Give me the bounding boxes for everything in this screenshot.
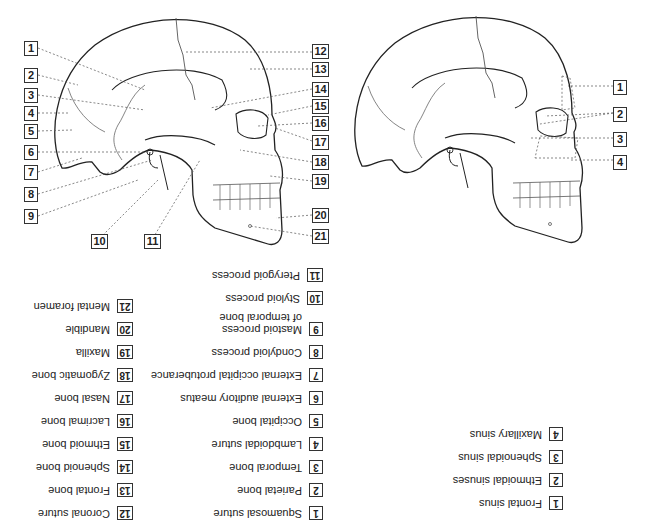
legend-item: 3 Sphenoidal sinus [458, 450, 563, 464]
legend-label: Sphenoidal sinus [458, 452, 542, 464]
legend-label: Ethmoidal sinuses [453, 475, 542, 487]
marker-21: 21 [312, 229, 329, 244]
legend-item: 4 Maxillary sinus [470, 427, 563, 441]
legend-number: 14 [117, 460, 133, 474]
marker-3: 3 [24, 88, 38, 103]
legend-label: Parietal bone [237, 485, 302, 497]
legend-item: 1 Squamosal suture [213, 506, 323, 520]
legend-number: 15 [117, 437, 133, 451]
legend-number: 9 [309, 322, 323, 336]
legend-number: 20 [117, 322, 133, 336]
marker-6: 6 [24, 145, 38, 160]
legend-item: 2 Parietal bone [237, 483, 323, 497]
legend-number: 21 [117, 299, 133, 313]
legend-label: Maxilla [76, 347, 110, 359]
legend-item: 3 Temporal bone [229, 460, 323, 474]
marker-8: 8 [24, 187, 38, 202]
legend-label: External auditory meatus [180, 393, 302, 405]
legend-number: 7 [309, 368, 323, 382]
left-skull [38, 18, 312, 244]
legend-item: 14 Sphenoid bone [36, 460, 133, 474]
marker-16: 16 [312, 116, 329, 131]
marker-12: 12 [312, 44, 329, 59]
legend-number: 8 [309, 345, 323, 359]
legend-number: 3 [549, 450, 563, 464]
legend-number: 19 [117, 345, 133, 359]
legend-number: 1 [549, 496, 563, 510]
legend-item: 17 Nasal bone [54, 391, 133, 405]
legend-item: 2 Ethmoidal sinuses [453, 473, 563, 487]
legend-label: Occipital bone [232, 416, 302, 428]
legend-label: Maxillary sinus [470, 429, 542, 441]
legend-label: Styloid process [225, 293, 300, 305]
marker-17: 17 [312, 135, 329, 150]
legend-number: 12 [117, 506, 133, 520]
marker-18: 18 [312, 155, 329, 170]
legend-label: Mental foramen [34, 301, 110, 313]
legend-number: 3 [309, 460, 323, 474]
legend-label: Condyloid process [212, 347, 303, 359]
legend-label: Sphenoid bone [36, 462, 110, 474]
legend-label: Frontal sinus [479, 498, 542, 510]
legend-number: 10 [307, 291, 323, 305]
marker-13: 13 [312, 62, 329, 77]
legend-item: 9 Mastoid process of temporal bone [219, 312, 323, 336]
leader-lines [38, 48, 312, 238]
legend-number: 1 [309, 506, 323, 520]
sinus-marker-1: 1 [613, 80, 627, 95]
marker-15: 15 [312, 99, 329, 114]
legend-label: Mastoid process of temporal bone [219, 312, 302, 336]
sinus-outlines [535, 76, 578, 158]
marker-2: 2 [24, 68, 38, 83]
legend-item: 15 Ethmoid bone [42, 437, 133, 451]
legend-number: 2 [549, 473, 563, 487]
legend-number: 4 [309, 437, 323, 451]
legend-number: 4 [549, 427, 563, 441]
legend-item: 8 Condyloid process [212, 345, 324, 359]
legend-item: 18 Zygomatic bone [32, 368, 133, 382]
legend-item: 19 Maxilla [76, 345, 133, 359]
legend-item: 21 Mental foramen [34, 299, 133, 313]
legend-label: Nasal bone [54, 393, 110, 405]
legend-item: 16 Lacrimal bone [41, 414, 133, 428]
marker-10: 10 [91, 234, 108, 249]
legend-number: 18 [117, 368, 133, 382]
legend-item: 4 Lambdoidal suture [211, 437, 323, 451]
legend-label: External occipital protuberance [151, 370, 302, 382]
marker-4: 4 [24, 106, 38, 121]
legend-label: Pterygoid process [212, 270, 300, 282]
legend-label: Mandible [65, 324, 110, 336]
legend-item: 13 Frontal bone [48, 483, 133, 497]
marker-20: 20 [312, 208, 329, 223]
marker-19: 19 [312, 174, 329, 189]
legend-number: 13 [117, 483, 133, 497]
legend-item: 7 External occipital protuberance [151, 368, 323, 382]
legend-number: 16 [117, 414, 133, 428]
marker-11: 11 [144, 234, 161, 249]
marker-1: 1 [24, 41, 38, 56]
legend-item: 11 Pterygoid process [212, 268, 323, 282]
marker-14: 14 [312, 82, 329, 97]
legend-number: 2 [309, 483, 323, 497]
legend-number: 5 [309, 414, 323, 428]
legend-label: Zygomatic bone [32, 370, 110, 382]
sinus-marker-2: 2 [613, 107, 627, 122]
legend-label: Frontal bone [48, 485, 110, 497]
legend-label: Squamosal suture [213, 508, 302, 520]
marker-7: 7 [24, 165, 38, 180]
legend: 1 Frontal sinus 2 Ethmoidal sinuses 3 Sp… [0, 255, 653, 528]
legend-number: 17 [117, 391, 133, 405]
sinus-marker-4: 4 [613, 155, 627, 170]
legend-item: 12 Coronal suture [38, 506, 133, 520]
legend-number: 6 [309, 391, 323, 405]
legend-item: 6 External auditory meatus [180, 391, 323, 405]
legend-item: 1 Frontal sinus [479, 496, 563, 510]
legend-label: Coronal suture [38, 508, 110, 520]
legend-label: Ethmoid bone [42, 439, 110, 451]
marker-9: 9 [24, 209, 38, 224]
legend-label: Temporal bone [229, 462, 302, 474]
sinus-marker-3: 3 [613, 132, 627, 147]
legend-item: 5 Occipital bone [232, 414, 323, 428]
legend-item: 10 Styloid process [225, 291, 323, 305]
legend-number: 11 [307, 268, 323, 282]
